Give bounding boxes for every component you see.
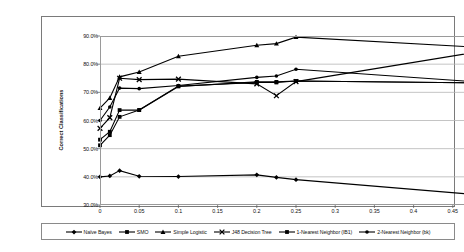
legend-swatch-diamond bbox=[66, 228, 82, 236]
plot-area bbox=[100, 36, 464, 205]
series-line bbox=[98, 47, 464, 131]
data-point-cross bbox=[274, 93, 279, 98]
data-point-square bbox=[118, 115, 122, 119]
data-point-square bbox=[294, 79, 298, 83]
y-tick-label: 60.0% bbox=[83, 118, 98, 124]
data-point-diamond bbox=[107, 174, 112, 179]
y-tick-label: 30.0% bbox=[83, 202, 98, 208]
data-point-square bbox=[98, 143, 102, 147]
legend-swatch-square bbox=[119, 228, 135, 236]
legend-label: Simple Logistic bbox=[173, 229, 206, 235]
legend-swatch-square bbox=[279, 228, 295, 236]
chart-frame: Correct Classifications 30.0%40.0%50.0%6… bbox=[41, 16, 455, 207]
y-tick-label: 50.0% bbox=[83, 146, 98, 152]
y-tick-label: 40.0% bbox=[83, 174, 98, 180]
series-line bbox=[98, 79, 464, 141]
data-point-square bbox=[125, 230, 129, 234]
x-tick-label: 0.3 bbox=[331, 208, 339, 214]
legend-item[interactable]: J48 Decision Tree bbox=[214, 228, 272, 236]
series-line bbox=[98, 35, 464, 110]
data-point-diamond bbox=[176, 174, 181, 179]
data-point-circle bbox=[365, 230, 369, 234]
legend-swatch-cross bbox=[214, 228, 230, 236]
x-tick-label: 0.05 bbox=[134, 208, 145, 214]
data-point-diamond bbox=[137, 174, 142, 179]
y-axis-ticks: 30.0%40.0%50.0%60.0%70.0%80.0%90.0% bbox=[42, 36, 98, 205]
legend-label: 1-Nearest Neighbor (IB1) bbox=[297, 229, 353, 235]
data-point-circle bbox=[108, 105, 112, 109]
data-point-square bbox=[255, 81, 259, 85]
y-tick-label: 90.0% bbox=[83, 33, 98, 39]
legend-label: J48 Decision Tree bbox=[232, 229, 272, 235]
legend-swatch-triangle bbox=[155, 228, 171, 236]
chart-legend: Naïve BayesSMOSimple LogisticJ48 Decisio… bbox=[41, 223, 455, 240]
series-layer bbox=[100, 36, 464, 205]
data-point-diamond bbox=[117, 168, 122, 173]
data-point-circle bbox=[118, 86, 122, 90]
legend-item[interactable]: SMO bbox=[119, 228, 149, 236]
data-point-circle bbox=[137, 87, 141, 91]
series-line bbox=[98, 67, 464, 122]
x-tick-label: 0.45 bbox=[448, 208, 459, 214]
data-point-diamond bbox=[71, 229, 76, 234]
data-point-circle bbox=[177, 84, 181, 88]
legend-label: Naïve Bayes bbox=[84, 229, 112, 235]
x-tick-label: 0.2 bbox=[253, 208, 261, 214]
data-point-circle bbox=[275, 74, 279, 78]
x-tick-label: 0.1 bbox=[175, 208, 183, 214]
data-point-square bbox=[137, 108, 141, 112]
legend-item[interactable]: Naïve Bayes bbox=[66, 228, 112, 236]
data-point-diamond bbox=[98, 174, 103, 179]
x-axis-ticks: 00.050.10.150.20.250.30.350.40.450.5 bbox=[100, 208, 464, 218]
data-point-square bbox=[275, 81, 279, 85]
data-point-diamond bbox=[294, 177, 299, 182]
data-point-circle bbox=[294, 67, 298, 71]
y-tick-label: 70.0% bbox=[83, 89, 98, 95]
legend-swatch-circle bbox=[359, 228, 375, 236]
data-point-square bbox=[108, 133, 112, 137]
chart-screenshot: Correct Classifications 30.0%40.0%50.0%6… bbox=[0, 0, 464, 252]
legend-item[interactable]: 2-Nearest Neighbor (bk) bbox=[359, 228, 430, 236]
data-point-square bbox=[285, 230, 289, 234]
x-tick-label: 0 bbox=[99, 208, 102, 214]
legend-item[interactable]: Simple Logistic bbox=[155, 228, 206, 236]
x-tick-label: 0.35 bbox=[369, 208, 380, 214]
x-tick-label: 0.15 bbox=[212, 208, 223, 214]
data-point-circle bbox=[98, 119, 102, 123]
series-line bbox=[98, 79, 464, 147]
data-point-diamond bbox=[274, 175, 279, 180]
data-point-square bbox=[98, 138, 102, 142]
data-point-square bbox=[118, 108, 122, 112]
x-tick-label: 0.25 bbox=[291, 208, 302, 214]
data-point-triangle bbox=[107, 95, 112, 99]
data-point-diamond bbox=[254, 172, 259, 177]
data-point-cross bbox=[98, 126, 103, 131]
legend-label: SMO bbox=[137, 229, 149, 235]
legend-item[interactable]: 1-Nearest Neighbor (IB1) bbox=[279, 228, 353, 236]
legend-label: 2-Nearest Neighbor (bk) bbox=[377, 229, 430, 235]
series-line bbox=[98, 168, 464, 198]
x-tick-label: 0.4 bbox=[410, 208, 418, 214]
y-tick-label: 80.0% bbox=[83, 61, 98, 67]
data-point-circle bbox=[255, 76, 259, 80]
